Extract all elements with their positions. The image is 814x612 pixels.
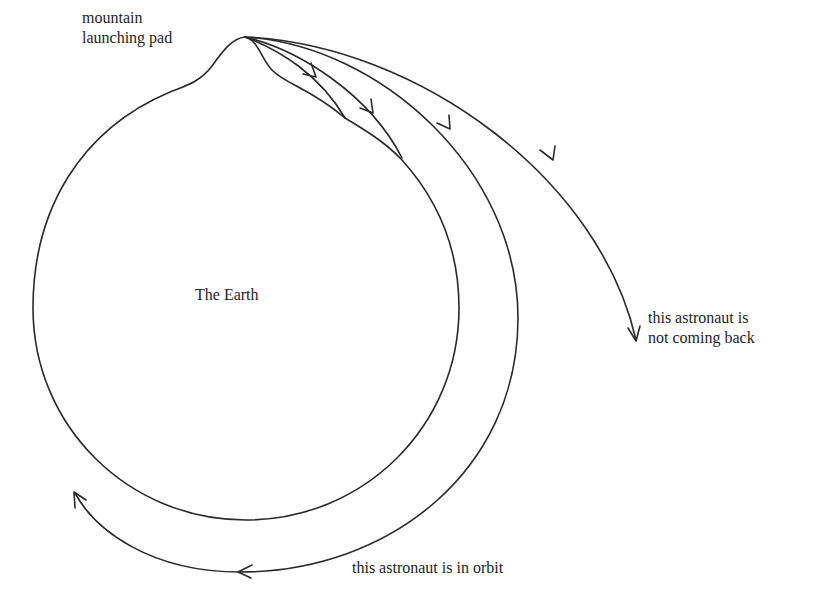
- trajectory-orbit: [75, 37, 518, 572]
- trajectory-diagram: [0, 0, 814, 612]
- earth-label: The Earth: [195, 285, 259, 305]
- mountain-launching-pad-label: mountain launching pad: [82, 8, 172, 48]
- earth-outline: [33, 37, 459, 520]
- arrowhead-escape-mid: [540, 146, 555, 160]
- mountain-label-line-2: launching pad: [82, 28, 172, 48]
- arrowhead-short-1: [303, 63, 316, 77]
- trajectory-escape: [245, 37, 636, 340]
- orbit-astronaut-label: this astronaut is in orbit: [352, 558, 503, 578]
- escape-astronaut-label: this astronaut is not coming back: [648, 308, 755, 348]
- arrowhead-orbit-top: [437, 115, 450, 129]
- arrowhead-short-2: [360, 99, 373, 113]
- escape-label-line-1: this astronaut is: [648, 308, 755, 328]
- escape-label-line-2: not coming back: [648, 328, 755, 348]
- mountain-label-line-1: mountain: [82, 8, 172, 28]
